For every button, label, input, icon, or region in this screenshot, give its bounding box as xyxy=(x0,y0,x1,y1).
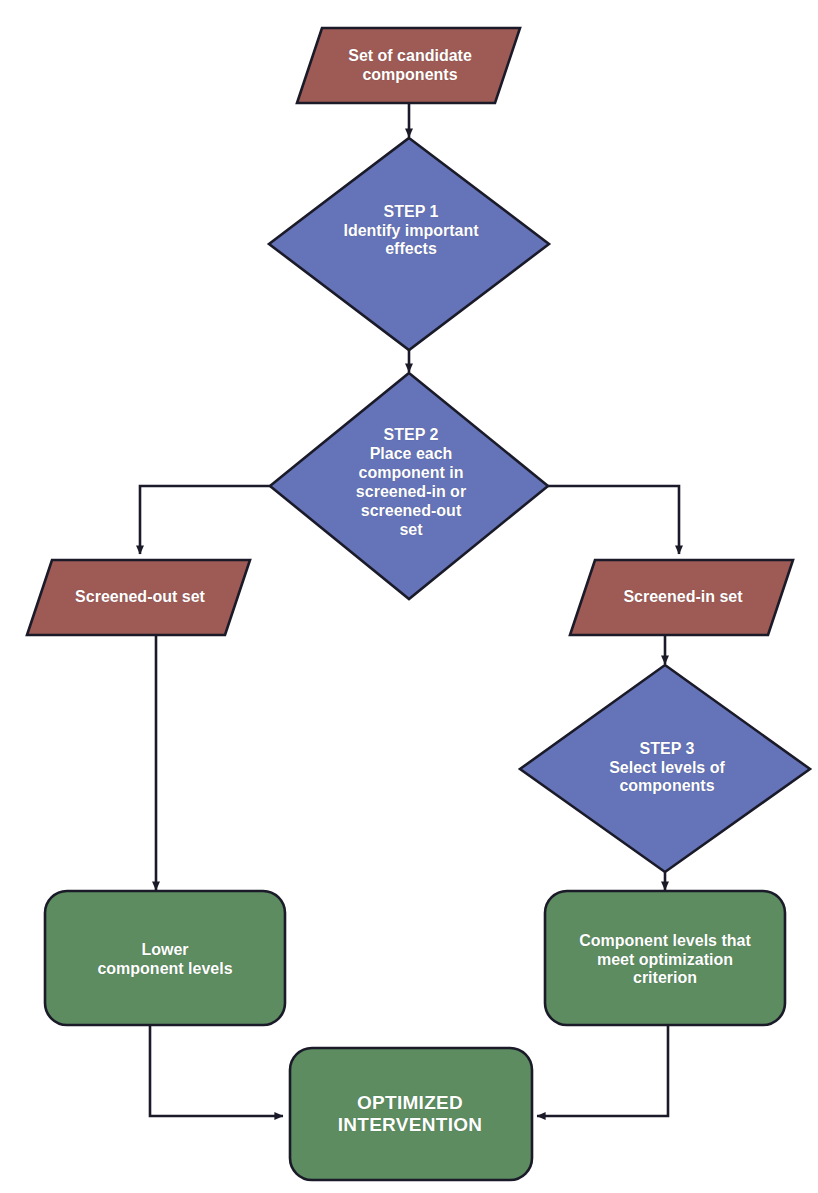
edge-lower-to-final xyxy=(150,1025,283,1116)
shape-candidate-components[interactable] xyxy=(297,28,520,103)
shape-optimized-intervention[interactable] xyxy=(290,1048,532,1180)
edge-step2-to-screened-in xyxy=(548,486,679,554)
shape-lower-component-levels[interactable] xyxy=(45,891,285,1025)
flowchart-canvas: Set of candidate components STEP 1 Ident… xyxy=(0,0,818,1193)
shape-step-3[interactable] xyxy=(520,665,810,872)
flowchart-svg xyxy=(0,0,818,1193)
shape-step-2[interactable] xyxy=(270,373,548,599)
shape-screened-out-set[interactable] xyxy=(27,560,250,635)
shape-component-levels-meet-criterion[interactable] xyxy=(545,891,785,1025)
edge-meet-to-final xyxy=(537,1025,668,1116)
shape-screened-in-set[interactable] xyxy=(570,560,793,635)
edge-step2-to-screened-out xyxy=(140,486,271,554)
shape-step-1[interactable] xyxy=(269,138,549,350)
